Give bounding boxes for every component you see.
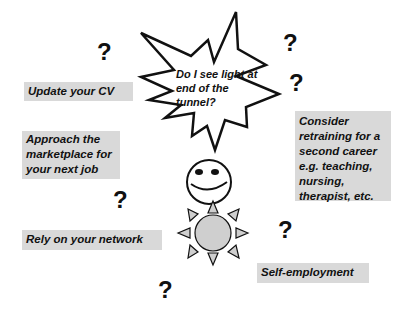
- option-retraining: Consider retraining for a second career …: [295, 111, 391, 201]
- option-label: e.g. teaching,: [299, 159, 387, 174]
- starburst-line: Do I see light at: [176, 67, 266, 81]
- option-label: nursing,: [299, 174, 387, 189]
- starburst-line: tunnel?: [176, 95, 266, 109]
- question-mark-icon: ?: [158, 278, 173, 302]
- starburst-line: end of the: [176, 81, 266, 95]
- option-label: therapist, etc.: [299, 189, 387, 204]
- option-label: marketplace for: [26, 147, 116, 162]
- question-mark-icon: ?: [289, 71, 304, 95]
- option-rely-network: Rely on your network: [22, 230, 162, 250]
- option-label: Self-employment: [261, 265, 365, 280]
- option-self-employment: Self-employment: [257, 263, 369, 283]
- option-label: Approach the: [26, 132, 116, 147]
- question-mark-icon: ?: [283, 31, 298, 55]
- option-label: Consider: [299, 114, 387, 129]
- smiley-face-icon: [187, 160, 231, 204]
- option-label: retraining for a: [299, 129, 387, 144]
- option-approach-marketplace: Approach the marketplace for your next j…: [22, 131, 120, 179]
- question-mark-icon: ?: [97, 40, 112, 64]
- option-label: Rely on your network: [26, 232, 158, 247]
- option-label: your next job: [26, 162, 116, 177]
- option-label: second career: [299, 144, 387, 159]
- sun-icon: [178, 201, 248, 265]
- question-mark-icon: ?: [278, 218, 293, 242]
- starburst-question: Do I see light at end of the tunnel?: [176, 67, 266, 109]
- question-mark-icon: ?: [113, 188, 128, 212]
- option-label: Update your CV: [28, 84, 129, 99]
- option-update-cv: Update your CV: [24, 82, 133, 101]
